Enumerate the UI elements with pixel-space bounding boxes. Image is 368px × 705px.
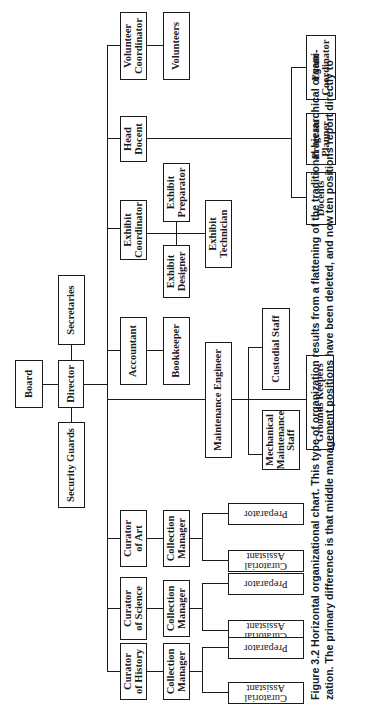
node-label-line: Docent [134,123,145,155]
node-label-line: Technician [219,210,230,259]
node-label-line: Curator [123,653,134,690]
node-label-line: Collection [166,649,177,695]
node-preparator-history: Preparator [228,637,304,659]
node-label: Curatorial Assistant [230,551,302,572]
line-headdocent-down [147,138,291,139]
drop-art-prep [202,513,228,514]
node-curator-history: Curator of History [120,643,147,700]
node-curator-science: Curator of Science [120,577,147,640]
line-acct-bookkeeper [147,350,163,351]
node-label: Security Guards [66,428,77,502]
node-label-line: Collection [166,586,177,632]
node-label-line: Curator [123,590,134,627]
node-bookkeeper: Bookkeeper [163,317,190,385]
node-board: Board [15,360,43,408]
node-collection-manager-history: Collection Manager [163,643,190,700]
line-director-security [71,408,72,422]
drop-head-docent [107,138,120,139]
node-mechanical-maintenance-staff: Mechanical Maintenance Staff [262,410,300,470]
node-security-guards: Security Guards [58,422,85,508]
line-art-cm [147,538,163,539]
node-label-line: Curator [123,520,134,557]
line-director-secretaries [71,345,72,360]
node-label: Preparator [244,579,288,590]
caption-text-1: This type of organization results from a… [309,50,321,486]
node-label: Board [24,370,35,398]
node-preparator-art: Preparator [228,503,304,525]
line-vc-volunteers [147,45,163,46]
node-label: Director [66,365,77,403]
node-label: Preparator [244,509,288,520]
drop-sci-ca [202,630,228,631]
drop-curator-history [107,671,120,672]
node-volunteers: Volunteers [163,12,190,80]
caption-line-1: Figure 3.2 Horizontal organizational cha… [309,0,323,700]
node-label-line: Manager [177,588,188,629]
node-label: Curatorial Assistant [230,683,302,704]
caption-line-2: zation. The primary difference is that m… [323,0,337,700]
node-preparator-science: Preparator [228,573,304,595]
node-director: Director [58,360,84,408]
node-label: Custodial Staff [271,315,282,382]
drop-curator-art [107,538,120,539]
drop-exhibit-coord [107,228,120,229]
node-label: Preparator [244,643,288,654]
node-maintenance-engineer: Maintenance Engineer [205,342,232,458]
line-sci-branch [202,584,203,631]
node-label: Accountant [128,325,139,377]
node-label-line: Exhibit [166,176,177,209]
figure-caption: Figure 3.2 Horizontal organizational cha… [309,0,336,700]
figure-number: Figure 3.2 [309,650,321,700]
node-exhibit-preparator: Exhibit Preparator [163,163,190,222]
node-label-line: Coordinator [134,202,145,258]
drop-volunteer-coord [107,45,120,46]
node-label-line: of History [134,649,145,694]
node-curatorial-assistant-art: Curatorial Assistant [228,550,304,572]
node-head-docent: Head Docent [120,116,147,162]
node-label-line: Head [123,127,134,151]
node-label: Volunteers [171,22,182,70]
node-exhibit-coordinator: Exhibit Coordinator [120,200,147,260]
drop-maintenance [107,399,205,400]
node-custodial-staff: Custodial Staff [262,308,290,390]
node-label-line: Exhibit [123,213,134,246]
node-label-line: Staff [286,429,297,451]
line-docent-branch [291,68,292,198]
node-label-line: Manager [177,518,188,559]
rotated-page: Board Director Secretaries Security Guar… [0,0,368,705]
node-label-line: Collection [166,516,177,562]
node-label-line: Exhibit [208,217,219,250]
node-label: Maintenance Engineer [213,349,224,451]
drop-sci-prep [202,583,228,584]
line-sci-cm-down [190,608,202,609]
node-accountant: Accountant [120,317,147,385]
drop-accountant [107,350,120,351]
node-exhibit-technician: Exhibit Technician [205,200,232,268]
node-curatorial-assistant-history: Curatorial Assistant [228,682,304,704]
line-hist-cm-down [190,671,202,672]
drop-custodial [248,347,262,348]
line-art-branch [202,514,203,561]
node-collection-manager-art: Collection Manager [163,510,190,567]
line-art-cm-down [190,538,202,539]
drop-curator-science [107,608,120,609]
line-sci-cm [147,608,163,609]
node-exhibit-designer: Exhibit Designer [163,245,190,298]
drop-hist-prep [202,647,228,648]
node-label-line: Preparator [177,168,188,218]
node-label-line: Volunteer [123,24,134,68]
figure-title: Horizontal organizational chart. [309,489,321,647]
node-volunteer-coordinator: Volunteer Coordinator [120,12,147,80]
node-collection-manager-science: Collection Manager [163,580,190,637]
node-curator-art: Curator of Art [120,510,147,567]
drop-docents [291,197,306,198]
node-label-line: of Art [134,525,145,552]
node-label-line: of Science [134,586,145,631]
node-label-line: Manager [177,651,188,692]
line-board-director [43,383,58,385]
node-secretaries: Secretaries [58,275,85,345]
node-label: Secretaries [66,285,77,334]
node-label-line: Designer [177,252,188,292]
drop-hist-ca [202,692,228,693]
line-main-trunk [107,46,108,672]
